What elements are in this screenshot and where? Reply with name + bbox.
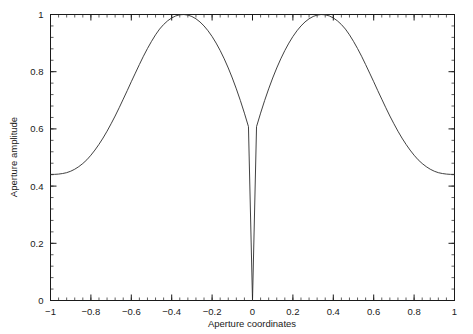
y-axis-title: Aperture amplitude bbox=[8, 117, 19, 197]
x-tick-label: 0.6 bbox=[367, 306, 380, 317]
x-axis-title: Aperture coordinates bbox=[208, 318, 296, 329]
y-tick-label: 1 bbox=[38, 9, 43, 20]
figure-background bbox=[0, 0, 473, 334]
y-tick-label: 0.6 bbox=[30, 123, 43, 134]
x-tick-label: −0.2 bbox=[203, 306, 222, 317]
x-tick-label: 0.2 bbox=[286, 306, 299, 317]
chart-figure: −1−0.8−0.6−0.4−0.200.20.40.60.81 00.20.4… bbox=[0, 0, 473, 334]
x-tick-label: −0.4 bbox=[162, 306, 181, 317]
x-tick-label: 1 bbox=[452, 306, 457, 317]
aperture-amplitude-line-chart: −1−0.8−0.6−0.4−0.200.20.40.60.81 00.20.4… bbox=[0, 0, 473, 334]
x-tick-label: −0.6 bbox=[122, 306, 141, 317]
x-tick-label: 0.8 bbox=[407, 306, 420, 317]
y-tick-label: 0.4 bbox=[30, 181, 43, 192]
x-tick-label: −1 bbox=[45, 306, 56, 317]
x-tick-label: −0.8 bbox=[82, 306, 101, 317]
y-tick-label: 0 bbox=[38, 295, 43, 306]
x-tick-label: 0 bbox=[250, 306, 255, 317]
y-tick-label: 0.2 bbox=[30, 238, 43, 249]
y-tick-label: 0.8 bbox=[30, 66, 43, 77]
x-tick-label: 0.4 bbox=[327, 306, 340, 317]
